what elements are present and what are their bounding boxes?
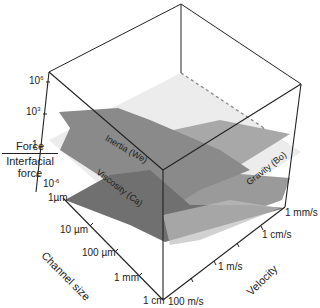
x-tick-10um: 10 µm [60, 225, 88, 235]
z-tick-1e3: 103 [26, 106, 40, 117]
z-tick-1e6: 106 [29, 75, 43, 86]
z-axis-label-numerator: Force [2, 140, 58, 154]
y-tick-1cms: 1 cm/s [262, 230, 291, 240]
box-back-edges [49, 4, 301, 84]
y-tick-1mms: 1 mm/s [285, 208, 318, 218]
z-axis-label-denominator: Interfacial force [2, 154, 58, 179]
x-tick-100um: 100 µm [82, 248, 116, 258]
y-tick-1ms: 1 m/s [218, 262, 242, 272]
z-axis-label: Force Interfacial force [2, 140, 58, 179]
x-tick-1cm: 1 cm [143, 296, 165, 306]
z-tick-1e-6: 10-6 [43, 178, 59, 189]
x-tick-1mm: 1 mm [114, 273, 139, 283]
x-tick-1um: 1µm [48, 193, 68, 203]
y-tick-100ms: 100 m/s [168, 297, 204, 307]
